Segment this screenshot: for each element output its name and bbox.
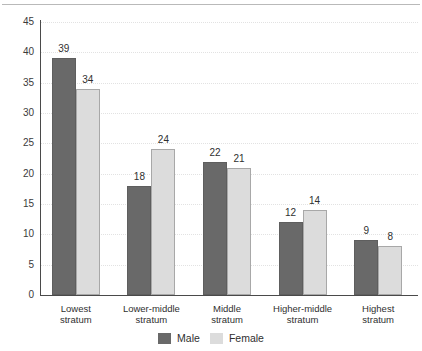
category-label: Higheststratum [330, 303, 422, 325]
gridline [40, 22, 418, 23]
y-tick-label: 5 [4, 260, 34, 270]
bar-value-label: 24 [148, 135, 178, 145]
y-tick-label: 20 [4, 169, 34, 179]
bar-value-label: 18 [124, 172, 154, 182]
bar-male-1 [127, 186, 151, 295]
bar-male-0 [52, 58, 76, 295]
legend-item-male[interactable]: Male [158, 333, 200, 344]
bar-female-3 [303, 210, 327, 295]
y-tick-label: 40 [4, 47, 34, 57]
y-tick-label: 25 [4, 138, 34, 148]
legend-label: Female [229, 333, 264, 344]
bar-male-3 [279, 222, 303, 295]
y-axis-tick-labels: 051015202530354045 [0, 0, 34, 351]
bar-male-2 [203, 162, 227, 295]
y-tick-label: 15 [4, 199, 34, 209]
gridline [40, 52, 418, 53]
bar-value-label: 8 [375, 232, 405, 242]
plot-area: 393418242221121498 [40, 22, 418, 295]
bar-value-label: 12 [276, 208, 306, 218]
legend-item-female[interactable]: Female [210, 333, 264, 344]
bar-value-label: 21 [224, 154, 254, 164]
y-tick-label: 35 [4, 78, 34, 88]
bar-value-label: 39 [49, 44, 79, 54]
y-axis-line [40, 20, 41, 296]
chart-legend: MaleFemale [0, 333, 422, 344]
bar-value-label: 34 [73, 75, 103, 85]
bar-female-0 [76, 89, 100, 295]
bar-value-label: 14 [300, 196, 330, 206]
y-tick-label: 30 [4, 108, 34, 118]
y-tick-label: 0 [4, 290, 34, 300]
bar-female-2 [227, 168, 251, 295]
bar-female-1 [151, 149, 175, 295]
page-top-rule [2, 4, 420, 5]
y-tick-label: 45 [4, 17, 34, 27]
legend-swatch-icon [158, 333, 171, 344]
bar-chart: 051015202530354045 393418242221121498 Lo… [0, 0, 422, 351]
legend-label: Male [177, 333, 200, 344]
bar-male-4 [354, 240, 378, 295]
bar-female-4 [378, 246, 402, 295]
y-tick-label: 10 [4, 229, 34, 239]
x-axis-line [40, 295, 418, 296]
legend-swatch-icon [210, 333, 223, 344]
